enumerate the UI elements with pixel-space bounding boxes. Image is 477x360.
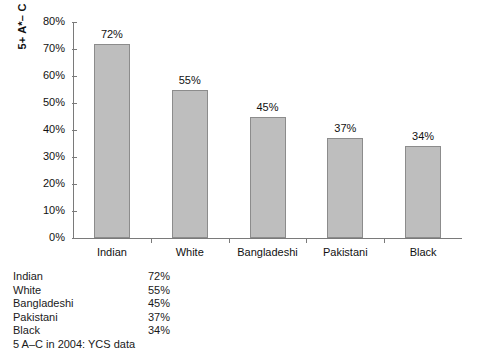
table-cell-category: White (13, 284, 41, 298)
table-cell-value: 45% (148, 297, 170, 311)
table-cell-value: 72% (148, 270, 170, 284)
y-tick-mark (72, 184, 77, 185)
data-table: Indian72%White55%Bangladeshi45%Pakistani… (13, 270, 313, 338)
table-row: Indian72% (13, 270, 313, 284)
y-tick: 30% (73, 157, 74, 158)
bar (172, 90, 208, 239)
bar-value-label: 55% (160, 75, 220, 86)
bar-value-label: 37% (315, 123, 375, 134)
y-tick-mark (72, 49, 77, 50)
table-cell-category: Indian (13, 270, 43, 284)
bar-value-label: 72% (82, 29, 142, 40)
y-tick-label: 0% (10, 232, 65, 243)
y-tick-mark (72, 157, 77, 158)
y-tick-mark (72, 130, 77, 131)
chart-page: 5+ A*– C GCSE passes 0%10%20%30%40%50%60… (0, 0, 477, 360)
y-tick: 40% (73, 130, 74, 131)
y-tick-label: 30% (10, 151, 65, 162)
y-tick: 20% (73, 184, 74, 185)
y-axis-title: 5+ A*– C GCSE passes (16, 0, 32, 68)
bar (250, 117, 286, 239)
y-tick: 50% (73, 103, 74, 104)
table-cell-category: Black (13, 324, 40, 338)
y-tick: 10% (73, 211, 74, 212)
bar-value-label: 34% (393, 131, 453, 142)
x-axis-line (73, 238, 462, 239)
y-tick: 80% (73, 22, 74, 23)
table-cell-category: Pakistani (13, 311, 58, 325)
bar (94, 44, 130, 238)
x-category-label: Black (373, 246, 473, 258)
table-cell-value: 55% (148, 284, 170, 298)
table-row: Bangladeshi45% (13, 297, 313, 311)
y-tick-mark (72, 211, 77, 212)
y-tick-label: 50% (10, 97, 65, 108)
table-row: Pakistani37% (13, 311, 313, 325)
y-tick: 70% (73, 49, 74, 50)
y-tick: 0% (73, 238, 74, 239)
plot-area: 0%10%20%30%40%50%60%70%80% 72%55%45%37%3… (73, 22, 462, 238)
x-tick-mark (151, 238, 152, 243)
y-tick-label: 70% (10, 43, 65, 54)
table-cell-value: 37% (148, 311, 170, 325)
y-tick-mark (72, 22, 77, 23)
table-row: White55% (13, 284, 313, 298)
y-tick-label: 60% (10, 70, 65, 81)
y-tick: 60% (73, 76, 74, 77)
x-tick-mark (384, 238, 385, 243)
bar (327, 138, 363, 238)
x-tick-mark (306, 238, 307, 243)
table-row: Black34% (13, 324, 313, 338)
y-tick-mark (72, 238, 77, 239)
y-tick-label: 40% (10, 124, 65, 135)
bar (405, 146, 441, 238)
x-tick-mark (229, 238, 230, 243)
y-tick-mark (72, 76, 77, 77)
bar-chart: 5+ A*– C GCSE passes 0%10%20%30%40%50%60… (0, 0, 477, 262)
y-tick-label: 20% (10, 178, 65, 189)
y-tick-mark (72, 103, 77, 104)
y-tick-label: 10% (10, 205, 65, 216)
table-cell-category: Bangladeshi (13, 297, 74, 311)
y-tick-label: 80% (10, 16, 65, 27)
bar-value-label: 45% (238, 102, 298, 113)
source-note: 5 A–C in 2004: YCS data (13, 338, 135, 351)
table-cell-value: 34% (148, 324, 170, 338)
